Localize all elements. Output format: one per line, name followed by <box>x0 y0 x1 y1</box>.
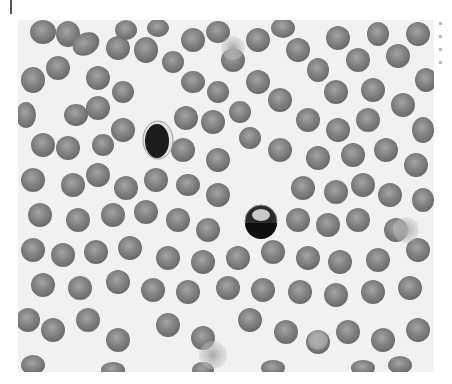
granulocyte <box>245 205 277 239</box>
lymphocyte <box>143 121 173 159</box>
corner-tick-mark <box>10 0 12 14</box>
micrograph-image <box>18 20 434 372</box>
red-blood-cells <box>18 20 434 372</box>
right-edge-marks <box>439 22 443 82</box>
blood-smear-micrograph <box>18 20 434 372</box>
